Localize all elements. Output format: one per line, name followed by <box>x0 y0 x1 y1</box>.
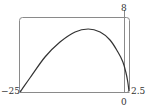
x-zero-label: 0 <box>121 98 127 107</box>
viewing-window-frame <box>20 18 130 93</box>
plot-area <box>0 0 146 109</box>
y-max-label: 8 <box>121 4 127 13</box>
parametric-curve <box>20 29 129 92</box>
x-max-label: 2.5 <box>131 87 145 96</box>
x-min-label: −25 <box>1 87 20 96</box>
